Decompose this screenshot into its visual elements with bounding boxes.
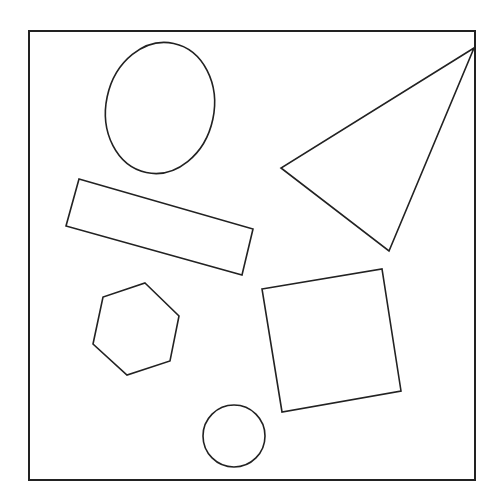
circle-shape [203, 405, 265, 467]
diagram-svg [0, 0, 502, 501]
outer-frame [29, 31, 475, 480]
triangle-shape [281, 48, 474, 251]
diagram-canvas [0, 0, 502, 501]
rotated-square-shape [262, 269, 401, 412]
hexagon-shape [93, 283, 179, 375]
ellipse-shape [93, 32, 226, 184]
rotated-rectangle-shape [66, 179, 253, 275]
